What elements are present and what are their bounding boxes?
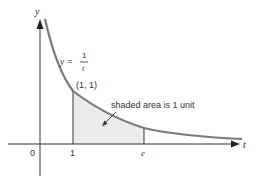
equation-denominator: t bbox=[82, 64, 85, 73]
y-axis-arrow-icon bbox=[37, 19, 44, 29]
point-label: (1, 1) bbox=[76, 80, 97, 90]
y-axis-label: y bbox=[34, 6, 40, 17]
diagram-canvas: y t 0 1 e y = 1 t (1, 1) shaded area is … bbox=[0, 0, 255, 182]
t-axis-label: t bbox=[243, 139, 246, 150]
tick-label-e: e bbox=[141, 148, 145, 158]
annotation-text: shaded area is 1 unit bbox=[111, 100, 195, 110]
equation-lhs: y = bbox=[59, 57, 73, 67]
origin-label: 0 bbox=[30, 148, 35, 158]
equation-numerator: 1 bbox=[82, 51, 87, 60]
t-axis-arrow-icon bbox=[231, 141, 240, 148]
tick-label-1: 1 bbox=[70, 148, 75, 158]
